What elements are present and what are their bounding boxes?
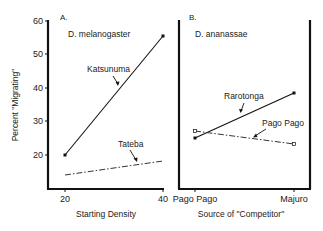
- xtick-label-a-40: 40: [158, 194, 168, 204]
- series-label-tateba: Tateba: [118, 139, 144, 149]
- x-axis-title-b: Source of "Competitor": [198, 209, 284, 219]
- arrowhead-pagopago: [253, 134, 258, 138]
- arrowhead-rarotonga: [239, 109, 243, 113]
- panel-label-a: A.: [60, 13, 68, 22]
- panel-b: Pago Pago Majuro Source of "Competitor" …: [173, 13, 311, 219]
- xtick-label-a-20: 20: [60, 194, 70, 204]
- ytick-label-20: 20: [33, 150, 43, 160]
- marker-rarotonga-pagopago: [194, 137, 197, 140]
- species-title-a: D. melanogaster: [68, 29, 131, 39]
- y-axis-title: Percent "Migrating": [10, 69, 20, 142]
- arrowhead-katsunuma: [116, 82, 120, 87]
- series-line-pagopago: [195, 131, 294, 144]
- series-label-katsunuma: Katsunuma: [87, 64, 130, 74]
- xtick-label-b-pagopago: Pago Pago: [173, 194, 218, 204]
- xtick-label-b-majuro: Majuro: [280, 194, 308, 204]
- x-axis-title-a: Starting Density: [76, 209, 137, 219]
- series-label-pagopago: Pago Pago: [262, 118, 304, 128]
- series-line-tateba: [65, 161, 163, 175]
- series-label-rarotonga: Rarotonga: [224, 91, 264, 101]
- arrow-pagopago: [255, 129, 266, 136]
- marker-pagopago-pagopago: [194, 130, 197, 133]
- species-title-b: D. ananassae: [195, 29, 248, 39]
- ytick-label-40: 40: [33, 83, 43, 93]
- ytick-label-30: 30: [33, 116, 43, 126]
- marker-rarotonga-majuro: [293, 92, 296, 95]
- ytick-label-60: 60: [33, 16, 43, 26]
- marker-katsunuma-20: [64, 154, 67, 157]
- marker-pagopago-majuro: [293, 143, 296, 146]
- series-line-katsunuma: [65, 36, 163, 155]
- migration-chart: Percent "Migrating" 60 50 40 30 20 20 40…: [0, 0, 323, 231]
- panel-label-b: B.: [189, 13, 197, 22]
- marker-katsunuma-40: [162, 35, 165, 38]
- panel-a: 60 50 40 30 20 20 40 Starting Density A.…: [33, 13, 168, 219]
- arrowhead-tateba: [134, 158, 138, 163]
- ytick-label-50: 50: [33, 49, 43, 59]
